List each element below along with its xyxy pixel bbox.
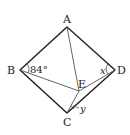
angle-label-84: 84° — [30, 64, 48, 75]
label-a: A — [62, 13, 72, 26]
geometry-diagram: A B D C E 84° x y — [0, 0, 130, 135]
segment-be — [20, 70, 79, 91]
segment-ec — [67, 91, 79, 113]
angle-label-x: x — [100, 65, 106, 76]
label-c: C — [63, 116, 71, 129]
angle-label-y: y — [79, 103, 86, 114]
angle-arc-d — [106, 64, 108, 74]
angle-arc-b — [27, 64, 29, 73]
label-b: B — [7, 64, 15, 77]
label-e: E — [78, 78, 86, 91]
label-d: D — [117, 64, 126, 77]
